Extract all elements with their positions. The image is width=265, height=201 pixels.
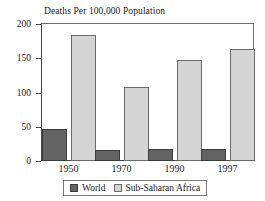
light-gray-swatch-icon [114, 184, 122, 192]
y-axis: 050100150200 [0, 23, 41, 161]
dark-gray-swatch-icon [70, 184, 78, 192]
bar-group [95, 24, 148, 161]
bar-1950-sub-saharan-africa [71, 35, 96, 161]
bar-1990-world [148, 149, 173, 161]
bars-layer [42, 24, 254, 161]
y-tick-mark [36, 161, 41, 162]
bar-1970-world [95, 150, 120, 161]
legend-label: World [82, 183, 106, 194]
chart-title: Deaths Per 100,000 Population [44, 5, 165, 17]
y-tick-label: 50 [22, 122, 32, 132]
chart-legend: WorldSub-Saharan Africa [63, 180, 207, 196]
bar-1997-sub-saharan-africa [230, 49, 255, 161]
bar-1950-world [42, 129, 67, 161]
y-tick-label: 200 [17, 19, 31, 29]
legend-label: Sub-Saharan Africa [126, 183, 201, 194]
bar-group [42, 24, 95, 161]
x-tick-label: 1970 [112, 163, 132, 175]
legend-entry: World [70, 183, 106, 194]
y-tick-label: 150 [17, 53, 31, 63]
y-tick-label: 0 [26, 156, 31, 166]
bar-1990-sub-saharan-africa [177, 60, 202, 161]
legend-entry: Sub-Saharan Africa [114, 183, 201, 194]
x-tick-label: 1997 [218, 163, 238, 175]
bar-chart-figure: Deaths Per 100,000 Population 0501001502… [0, 0, 265, 201]
bar-group [148, 24, 201, 161]
x-tick-label: 1990 [165, 163, 185, 175]
x-tick-label: 1950 [59, 163, 79, 175]
bar-group [201, 24, 254, 161]
bar-1970-sub-saharan-africa [124, 87, 149, 161]
x-axis: 1950197019901997 [42, 163, 254, 177]
bar-1997-world [201, 149, 226, 161]
y-tick-label: 100 [17, 88, 31, 98]
